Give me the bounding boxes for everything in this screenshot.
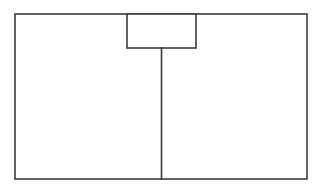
figure-canvas [0, 0, 319, 185]
line-drawing-svg [0, 0, 319, 185]
inner-top-rectangle [127, 14, 196, 48]
